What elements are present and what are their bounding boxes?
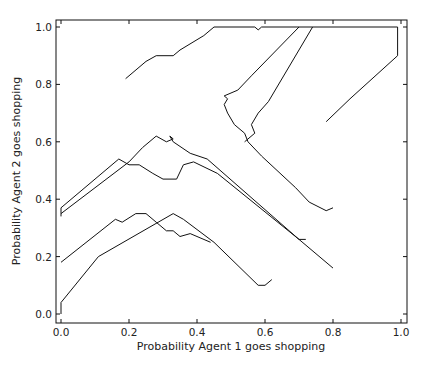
y-tick-label: 0.2	[35, 251, 52, 263]
y-tick-label: 0.4	[35, 193, 52, 205]
y-tick-label: 0.6	[35, 136, 52, 148]
y-axis-label: Probability Agent 2 goes shopping	[10, 77, 23, 265]
plot-background	[56, 20, 407, 323]
y-tick-label: 0.0	[35, 308, 52, 320]
y-tick-label: 0.8	[35, 78, 52, 90]
x-axis-label: Probability Agent 1 goes shopping	[137, 340, 325, 353]
x-tick-label: 0.6	[257, 326, 274, 338]
x-tick-label: 1.0	[393, 326, 410, 338]
x-tick-label: 0.2	[121, 326, 138, 338]
chart: 0.00.20.40.60.81.0 0.00.20.40.60.81.0 Pr…	[0, 0, 428, 368]
x-tick-label: 0.4	[189, 326, 206, 338]
y-tick-label: 1.0	[35, 21, 52, 33]
x-tick-label: 0.8	[325, 326, 342, 338]
x-tick-label: 0.0	[53, 326, 70, 338]
